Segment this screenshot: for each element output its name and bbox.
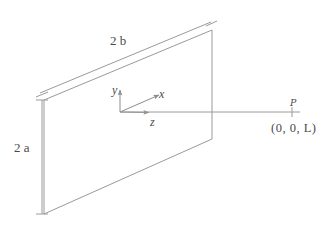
figure-container: 2 b 2 a x y z ᴾ (0, 0, L): [0, 0, 336, 227]
x-axis-line: [120, 95, 159, 112]
point-p-label: ᴾ: [290, 99, 296, 114]
width-dimension-value: 2 b: [110, 33, 126, 48]
height-dimension-label: 2 a: [14, 141, 30, 154]
width-dimension-label: 2 b: [110, 34, 126, 47]
diagram-canvas: [0, 0, 336, 227]
point-coordinates-label: (0, 0, L): [271, 122, 316, 135]
z-axis-label: z: [150, 116, 155, 128]
width-dimension-tick-left: [36, 92, 48, 97]
y-axis-label: y: [112, 84, 117, 96]
aperture-plane: [44, 30, 212, 214]
height-dimension-value: 2 a: [14, 140, 30, 155]
x-axis-label: x: [159, 88, 164, 100]
